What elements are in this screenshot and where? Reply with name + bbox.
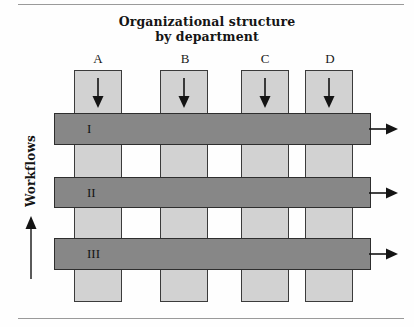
figure-title-line-2: by department (0, 29, 414, 44)
workflows-axis: Workflows (16, 120, 46, 280)
workflow-row-iii[interactable]: III (54, 238, 371, 270)
column-label-d: D (305, 51, 355, 67)
workflow-row-label-ii: II (87, 185, 96, 201)
figure-title-line-1: Organizational structure (0, 14, 414, 29)
right-arrow-icon-ii (369, 186, 401, 200)
workflow-row-i[interactable]: I (54, 113, 371, 145)
column-label-c: C (240, 51, 290, 67)
top-divider (18, 4, 404, 5)
bottom-divider (18, 318, 404, 319)
figure-title: Organizational structure by department (0, 14, 414, 44)
figure-canvas: Organizational structure by department A… (0, 0, 414, 327)
right-arrow-icon-iii (369, 247, 401, 261)
column-label-a: A (73, 51, 123, 67)
workflow-row-ii[interactable]: II (54, 177, 371, 208)
workflows-axis-label: Workflows (24, 123, 38, 219)
column-label-b: B (160, 51, 210, 67)
right-arrow-icon-i (369, 122, 401, 136)
workflow-row-label-i: I (87, 121, 91, 137)
up-arrow-icon-workflows (23, 215, 39, 281)
workflow-row-label-iii: III (87, 246, 100, 262)
